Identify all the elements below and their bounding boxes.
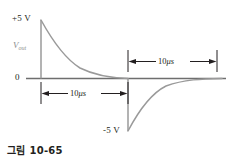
vout-subscript: out [19,45,27,51]
zero-label: 0 [15,73,20,82]
dimension-left-arrowhead-end [120,91,128,96]
figure-container: +5 V Vout 0 -5 V 10μs 10μs 그림 10-65 [0,0,228,161]
negative-recovery-curve [128,78,222,131]
dimension-right-label: 10μs [158,57,174,66]
peak-positive-label: +5 V [12,14,31,23]
dimension-right-arrowhead-start [129,59,137,64]
dimension-right-value: 10 [158,56,167,66]
dimension-left-arrowhead-start [42,91,50,96]
dimension-left-label: 10μs [70,89,86,98]
figure-caption: 그림 10-65 [7,142,63,157]
dimension-left-unit: μs [79,88,87,98]
positive-decay-curve [41,20,128,78]
waveform-plot [0,0,228,140]
vout-axis-label: Vout [13,41,26,50]
peak-negative-label: -5 V [103,126,120,135]
dimension-right-arrowhead-end [209,59,217,64]
dimension-right-unit: μs [167,56,175,66]
vout-symbol: V [13,40,19,50]
dimension-left-value: 10 [70,88,79,98]
